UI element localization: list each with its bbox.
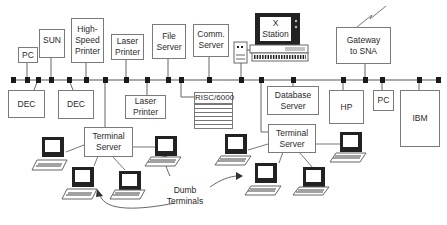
bus-node xyxy=(103,77,108,83)
bus-node xyxy=(124,77,129,83)
bus-node xyxy=(25,77,30,83)
bus-node xyxy=(259,77,264,83)
bus-node xyxy=(363,77,368,83)
bus-node xyxy=(380,77,385,83)
bus-node xyxy=(179,77,184,83)
bus-node xyxy=(436,77,441,83)
high-speed-printer-box: High- Speed Printer xyxy=(71,18,104,63)
sun-box: SUN xyxy=(39,29,65,58)
gateway-sna-box: Gateway to SNA xyxy=(336,27,391,64)
bus-node xyxy=(341,77,346,83)
bus-node xyxy=(36,77,41,83)
pc-left-box: PC xyxy=(18,47,38,63)
dec-2-box: DEC xyxy=(58,90,94,119)
x-station-label: X Station xyxy=(260,18,291,40)
bus-node xyxy=(67,77,72,83)
dec-1-box: DEC xyxy=(8,90,45,118)
file-server-box: File Server xyxy=(152,24,186,59)
network-diagram: PC SUN High- Speed Printer Laser Printer… xyxy=(0,0,447,225)
bus-node xyxy=(49,77,54,83)
modem-icon xyxy=(234,42,247,63)
bus-node xyxy=(207,77,212,83)
comm-server-box: Comm. Server xyxy=(193,24,229,57)
database-server-box: Database Server xyxy=(267,86,319,115)
pc-right-box: PC xyxy=(373,90,394,111)
bus-node xyxy=(84,77,89,83)
bus-node xyxy=(239,77,244,83)
ibm-box: IBM xyxy=(400,90,440,147)
terminal-server-1-box: Terminal Server xyxy=(84,127,133,157)
bus-node xyxy=(145,77,150,83)
risc-6000-box: RISC/6000 xyxy=(194,92,233,129)
dumb-terminals-label: Dumb Terminals xyxy=(160,185,210,207)
risc-6000-label: RISC/6000 xyxy=(195,93,232,104)
hp-box: HP xyxy=(329,90,364,124)
bus-node xyxy=(417,77,422,83)
bus-node xyxy=(166,77,171,83)
laser-printer-bottom-box: Laser Printer xyxy=(125,95,166,119)
laser-printer-top-box: Laser Printer xyxy=(111,34,144,60)
terminal-server-2-box: Terminal Server xyxy=(268,124,316,153)
bus-node xyxy=(291,77,296,83)
bus-node xyxy=(11,77,16,83)
